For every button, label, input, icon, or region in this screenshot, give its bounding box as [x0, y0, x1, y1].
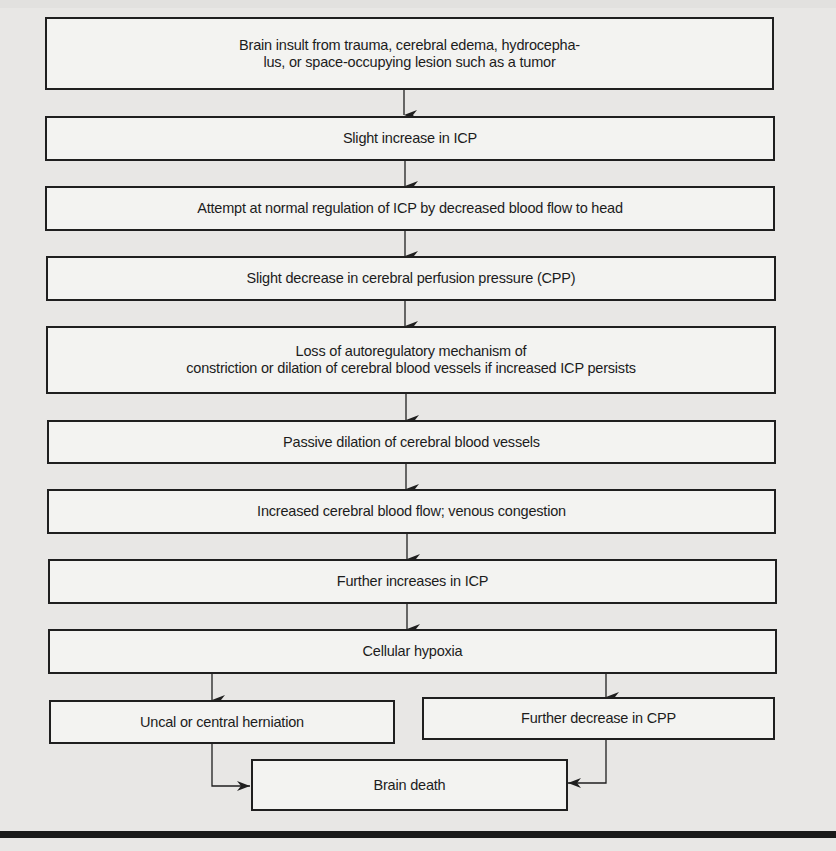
node-further-decrease-cpp-label: Further decrease in CPP [521, 710, 676, 727]
node-herniation: Uncal or central herniation [49, 700, 395, 744]
node-herniation-label: Uncal or central herniation [140, 714, 304, 731]
node-further-increases-icp-label: Further increases in ICP [337, 573, 489, 590]
node-brain-insult-line-2: lus, or space-occupying lesion such as a… [239, 54, 580, 71]
node-increased-blood-flow-label: Increased cerebral blood flow; venous co… [257, 503, 566, 520]
node-further-increases-icp: Further increases in ICP [48, 559, 777, 604]
node-increased-blood-flow: Increased cerebral blood flow; venous co… [47, 489, 776, 534]
node-loss-autoregulation-line-2: constriction or dilation of cerebral blo… [186, 360, 636, 377]
page-bottom-rule [0, 831, 836, 838]
node-passive-dilation-label: Passive dilation of cerebral blood vesse… [283, 434, 540, 451]
node-slight-increase-icp: Slight increase in ICP [45, 116, 775, 161]
node-slight-decrease-cpp: Slight decrease in cerebral perfusion pr… [46, 256, 776, 301]
node-further-decrease-cpp: Further decrease in CPP [422, 697, 775, 740]
node-brain-death-label: Brain death [374, 777, 446, 794]
node-slight-decrease-cpp-label: Slight decrease in cerebral perfusion pr… [247, 270, 576, 287]
bleed-through-strip [0, 0, 836, 8]
node-brain-insult: Brain insult from trauma, cerebral edema… [45, 17, 774, 90]
node-loss-autoregulation: Loss of autoregulatory mechanism of cons… [46, 326, 776, 394]
node-loss-autoregulation-line-1: Loss of autoregulatory mechanism of [186, 343, 636, 360]
node-brain-insult-line-1: Brain insult from trauma, cerebral edema… [239, 37, 580, 54]
node-cellular-hypoxia: Cellular hypoxia [48, 629, 777, 674]
node-attempt-regulation: Attempt at normal regulation of ICP by d… [45, 186, 775, 231]
node-slight-increase-icp-label: Slight increase in ICP [343, 130, 477, 147]
node-passive-dilation: Passive dilation of cerebral blood vesse… [47, 420, 776, 464]
node-attempt-regulation-label: Attempt at normal regulation of ICP by d… [197, 200, 623, 217]
node-cellular-hypoxia-label: Cellular hypoxia [363, 643, 463, 660]
node-brain-death: Brain death [251, 759, 568, 811]
